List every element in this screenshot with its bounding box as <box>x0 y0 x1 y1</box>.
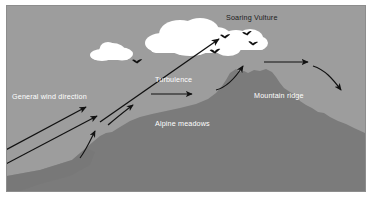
label-turbulence: Turbulence <box>155 75 192 84</box>
label-mountain-ridge: Mountain ridge <box>254 91 304 100</box>
label-soaring-vulture: Soaring Vulture <box>226 13 278 22</box>
diagram-canvas: General wind direction Turbulence Soarin… <box>0 0 373 204</box>
label-alpine-meadows: Alpine meadows <box>155 119 210 128</box>
vulture-soaring-diagram: General wind direction Turbulence Soarin… <box>0 0 373 204</box>
label-general-wind-direction: General wind direction <box>12 92 87 101</box>
